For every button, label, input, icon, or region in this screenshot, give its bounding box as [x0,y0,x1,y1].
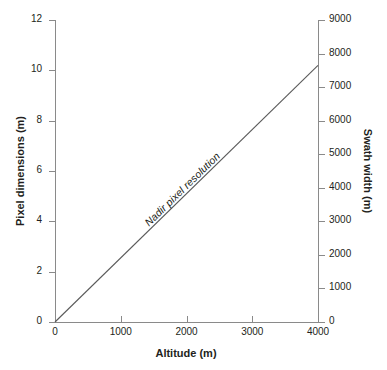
x-axis-title: Altitude (m) [155,348,216,359]
y-axis-left-title: Pixel dimensions (m) [15,116,26,226]
chart-figure: 0246810120100020003000400050006000700080… [0,0,387,370]
nadir-pixel-resolution-line [55,65,318,322]
y-axis-right-title: Swath width (m) [362,129,373,213]
